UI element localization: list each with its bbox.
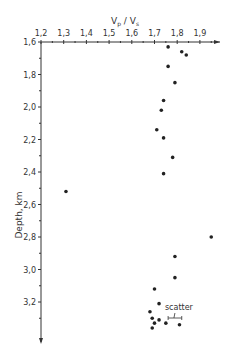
y-axis-title: Depth, km [14, 191, 24, 238]
data-point [173, 276, 177, 280]
x-axis-title: Vp / Vs [111, 16, 139, 28]
data-point [157, 318, 161, 322]
data-point [64, 190, 68, 194]
x-tick-label: 1,9 [194, 29, 207, 38]
y-axis-ticks: 1,61,82,02,22,42,62,83,03,2 [23, 38, 41, 318]
x-tick-label: 1,7 [148, 29, 161, 38]
data-point [166, 45, 170, 49]
y-tick-label: 2,8 [23, 233, 36, 242]
data-point [162, 172, 166, 176]
data-point [153, 287, 157, 291]
data-point [171, 156, 175, 160]
data-point [162, 99, 166, 103]
data-point [150, 326, 154, 330]
y-tick-label: 3,0 [23, 266, 36, 275]
y-tick-label: 2,4 [23, 168, 36, 177]
y-tick-label: 2,2 [23, 136, 36, 145]
data-point [153, 321, 157, 325]
data-point [166, 65, 170, 69]
x-tick-label: 1,4 [80, 29, 93, 38]
y-tick-label: 2,0 [23, 103, 36, 112]
data-point [173, 255, 177, 259]
x-tick-label: 1,5 [103, 29, 116, 38]
data-point [157, 302, 161, 306]
scatter-label: scatter [165, 303, 194, 312]
x-tick-label: 1,6 [125, 29, 138, 38]
x-tick-label: 1,3 [57, 29, 70, 38]
data-point [164, 321, 168, 325]
data-point [150, 316, 154, 320]
data-point [160, 108, 164, 112]
data-point [162, 136, 166, 140]
data-points [64, 45, 213, 330]
data-point [178, 323, 182, 327]
y-tick-label: 1,6 [23, 38, 36, 47]
y-tick-label: 3,2 [23, 298, 36, 307]
y-tick-label: 1,8 [23, 71, 36, 80]
data-point [155, 128, 159, 132]
data-point [173, 81, 177, 85]
data-point [184, 53, 188, 57]
data-point [209, 235, 213, 239]
y-tick-label: 2,6 [23, 201, 36, 210]
x-tick-label: 1,2 [35, 29, 48, 38]
vp-vs-depth-chart: 1,21,31,41,51,61,71,81,9 1,61,82,02,22,4… [0, 0, 233, 348]
data-point [180, 50, 184, 54]
scatter-legend: scatter [165, 303, 194, 320]
x-tick-label: 1,8 [171, 29, 184, 38]
data-point [148, 310, 152, 314]
